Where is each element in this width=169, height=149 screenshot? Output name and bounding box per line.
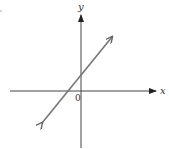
plotted-line [42, 37, 112, 123]
coordinate-plane: y x 0 [0, 0, 169, 149]
x-axis-label: x [160, 85, 166, 96]
stray-dot [0, 10, 1, 11]
origin-label: 0 [75, 93, 81, 103]
y-axis-label: y [77, 1, 84, 12]
